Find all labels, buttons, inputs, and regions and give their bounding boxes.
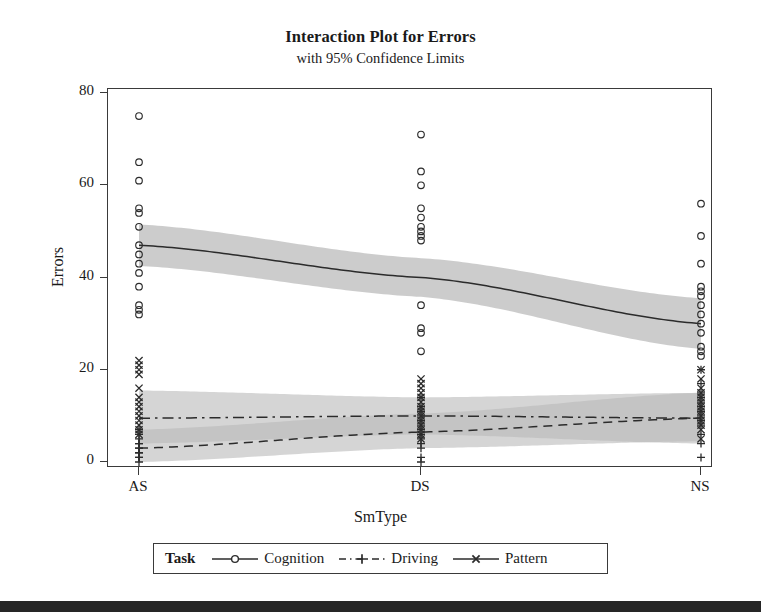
data-point-circle	[418, 214, 425, 221]
data-point-circle	[136, 113, 143, 120]
data-point-circle	[698, 200, 705, 207]
legend-entry-driving[interactable]: Driving	[339, 550, 438, 567]
data-point-circle	[418, 205, 425, 212]
legend-title: Task	[165, 550, 195, 567]
plot-canvas	[108, 89, 713, 468]
data-point-circle	[698, 260, 705, 267]
y-axis-tick-label: 40	[50, 267, 94, 284]
data-point-circle	[136, 311, 143, 318]
y-axis-tick	[100, 369, 107, 370]
legend-label-pattern: Pattern	[505, 550, 548, 567]
y-axis-tick-label: 60	[50, 174, 94, 191]
x-axis-tick-label: AS	[98, 478, 178, 495]
legend-label-cognition: Cognition	[264, 550, 324, 567]
legend: Task Cognition Driving Pattern	[153, 543, 608, 574]
legend-entry-pattern[interactable]: Pattern	[453, 550, 548, 567]
y-axis-tick-label: 20	[50, 359, 94, 376]
data-point-circle	[698, 233, 705, 240]
y-axis-tick-label: 0	[50, 451, 94, 468]
x-axis-tick-label: DS	[380, 478, 460, 495]
x-axis-tick	[138, 467, 139, 475]
data-point-circle	[418, 237, 425, 244]
data-point-circle	[698, 353, 705, 360]
legend-label-driving: Driving	[391, 550, 438, 567]
x-axis-tick	[420, 467, 421, 475]
chart-subtitle: with 95% Confidence Limits	[0, 50, 761, 67]
legend-key-cognition-icon	[212, 552, 258, 566]
legend-key-driving-icon	[339, 552, 385, 566]
x-axis-tick	[700, 467, 701, 475]
data-point-cross	[135, 371, 142, 378]
legend-key-pattern-icon	[453, 552, 499, 566]
data-point-circle	[418, 302, 425, 309]
data-point-plus	[697, 380, 705, 388]
data-point-circle	[418, 330, 425, 337]
data-point-plus	[697, 453, 705, 461]
data-point-circle	[136, 210, 143, 217]
y-axis-tick	[100, 184, 107, 185]
y-axis-tick	[100, 277, 107, 278]
x-axis-title: SmType	[0, 508, 761, 526]
data-point-circle	[418, 182, 425, 189]
data-point-circle	[418, 348, 425, 355]
chart-title: Interaction Plot for Errors	[0, 27, 761, 47]
page-edge-bar	[0, 601, 761, 612]
interaction-plot-figure: Interaction Plot for Errors with 95% Con…	[0, 0, 761, 612]
y-axis-tick-label: 80	[50, 82, 94, 99]
data-point-circle	[136, 283, 143, 290]
y-axis-tick	[100, 92, 107, 93]
data-point-plus	[417, 458, 425, 466]
y-axis-tick	[100, 461, 107, 462]
x-axis-tick-label: NS	[660, 478, 740, 495]
data-point-circle	[136, 159, 143, 166]
data-point-circle	[136, 177, 143, 184]
legend-entry-cognition[interactable]: Cognition	[212, 550, 324, 567]
plot-area	[107, 88, 712, 467]
data-point-circle	[136, 270, 143, 277]
data-point-circle	[418, 131, 425, 138]
data-point-circle	[418, 168, 425, 175]
